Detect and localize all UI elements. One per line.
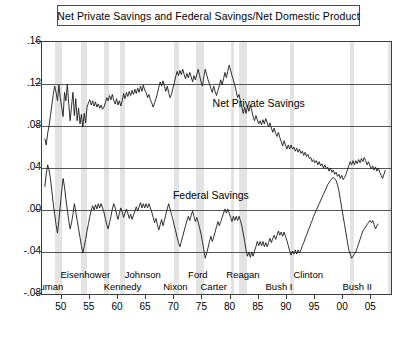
x-tick-mark <box>117 294 118 299</box>
x-tick-mark <box>145 294 146 299</box>
x-tick-label: 65 <box>133 301 157 312</box>
president-label: Clinton <box>294 270 324 280</box>
series-lines <box>42 42 391 294</box>
x-tick-label: 50 <box>49 301 73 312</box>
plot-inner: Net Private SavingsFederal Savings Truma… <box>42 42 391 294</box>
president-label: Truman <box>42 282 63 292</box>
x-tick-label: 60 <box>105 301 129 312</box>
x-tick-label: 80 <box>218 301 242 312</box>
president-label: Bush II <box>342 282 372 292</box>
series-label: Federal Savings <box>173 190 249 201</box>
president-label: Kennedy <box>104 282 142 292</box>
series-line <box>45 165 379 258</box>
x-tick-label: 85 <box>246 301 270 312</box>
x-tick-mark <box>173 294 174 299</box>
y-axis: .16.12.08.04.00-.04-.08 <box>0 0 41 344</box>
x-tick-label: 05 <box>358 301 382 312</box>
x-tick-label: 95 <box>302 301 326 312</box>
x-tick-label: 55 <box>77 301 101 312</box>
x-tick-mark <box>201 294 202 299</box>
x-tick-mark <box>230 294 231 299</box>
x-tick-label: 70 <box>161 301 185 312</box>
president-label: Johnson <box>125 270 161 280</box>
x-tick-label: 00 <box>330 301 354 312</box>
president-label: Reagan <box>226 270 259 280</box>
chart-root: Net Private Savings and Federal Savings/… <box>0 0 414 344</box>
x-tick-mark <box>342 294 343 299</box>
x-tick-mark <box>286 294 287 299</box>
x-tick-mark <box>370 294 371 299</box>
x-tick-mark <box>89 294 90 299</box>
x-tick-mark <box>258 294 259 299</box>
president-label: Ford <box>188 270 208 280</box>
x-tick-mark <box>314 294 315 299</box>
president-label: Carter <box>200 282 226 292</box>
president-label: Eisenhower <box>60 270 110 280</box>
x-tick-label: 75 <box>189 301 213 312</box>
president-label: Bush I <box>266 282 293 292</box>
x-tick-mark <box>61 294 62 299</box>
series-label: Net Private Savings <box>213 98 305 109</box>
x-axis: 505560657075808590950005 <box>0 294 414 344</box>
plot-area: Net Private SavingsFederal Savings Truma… <box>41 41 392 295</box>
chart-title-box: Net Private Savings and Federal Savings/… <box>57 5 360 26</box>
series-line <box>45 65 386 179</box>
president-label: Nixon <box>163 282 187 292</box>
chart-title: Net Private Savings and Federal Savings/… <box>57 10 359 22</box>
x-tick-label: 90 <box>274 301 298 312</box>
